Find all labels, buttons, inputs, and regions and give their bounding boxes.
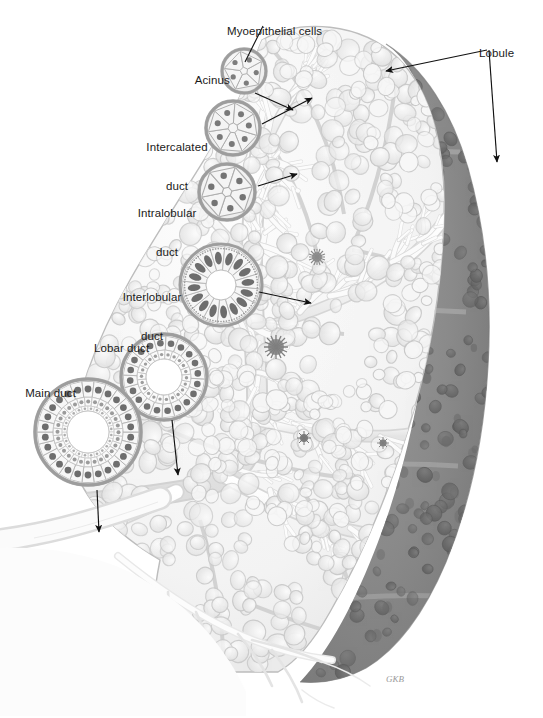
label-lobule: Lobule [466,34,514,73]
label-lobar-duct: Lobar duct [81,329,150,368]
label-acinus: Acinus [182,61,230,100]
label-myoepithelial-cells: Myoepithelial cells [214,12,322,51]
intercalated-duct-inset [206,101,260,155]
artist-signature: GKB [386,674,405,684]
label-main-duct: Main duct [12,374,76,413]
salivary-gland-figure: GKB Myoepithelial cells Acinus Intercala… [0,0,543,718]
